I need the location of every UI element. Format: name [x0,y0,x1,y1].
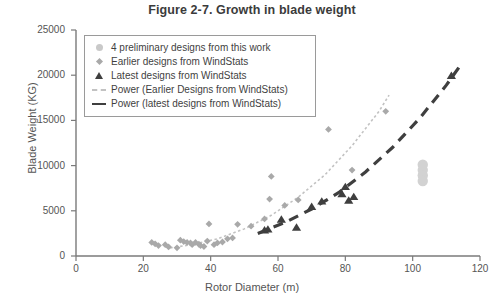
data-point [219,239,226,246]
legend-label: Power (Earlier Designs from WindStats) [111,83,288,96]
data-point [266,196,273,203]
data-point [307,203,316,210]
data-point [349,193,358,200]
data-point [204,238,211,245]
y-tick-marks [71,30,76,256]
data-point [349,167,356,174]
legend-label: 4 preliminary designs from this work [111,41,271,54]
data-point [229,235,236,242]
data-point [174,244,181,251]
legend-marker-dashed-line-icon [91,89,107,91]
data-point [418,176,428,186]
legend-glyph [92,103,106,105]
data-point [325,126,332,133]
x-tick-label: 100 [393,263,433,274]
legend-glyph [95,72,103,79]
data-point [268,173,275,180]
data-point [382,108,389,115]
legend-item: Latest designs from WindStats [91,69,309,82]
x-tick-marks [76,256,480,261]
x-tick-label: 20 [123,263,163,274]
y-axis-label: Blade Weight (KG) [26,48,38,208]
x-tick-label: 60 [258,263,298,274]
x-tick-label: 80 [325,263,365,274]
legend-glyph [95,58,102,65]
legend-marker-triangle-icon [91,72,107,79]
data-point [292,223,301,230]
data-point [261,216,268,223]
chart-legend: 4 preliminary designs from this workEarl… [84,35,316,117]
legend-item: 4 preliminary designs from this work [91,41,309,54]
legend-item: Power (Earlier Designs from WindStats) [91,83,309,96]
legend-label: Earlier designs from WindStats [111,55,248,68]
legend-item: Earlier designs from WindStats [91,55,309,68]
data-point [295,197,302,204]
x-tick-label: 120 [460,263,500,274]
x-tick-label: 0 [56,263,96,274]
y-tick-label: 25000 [5,24,65,35]
y-tick-label: 0 [5,250,65,261]
legend-marker-circle-icon [91,44,107,51]
legend-item: Power (latest designs from WindStats) [91,97,309,110]
data-point [234,221,241,228]
legend-glyph [96,44,103,51]
legend-label: Latest designs from WindStats [111,69,247,82]
data-point [277,215,286,222]
legend-glyph [92,89,106,91]
chart-figure: Figure 2-7. Growth in blade weight 05000… [0,0,504,303]
legend-label: Power (latest designs from WindStats) [111,97,281,110]
legend-marker-diamond-icon [91,59,107,64]
data-point [206,221,213,228]
x-tick-label: 40 [191,263,231,274]
x-axis-label: Rotor Diameter (m) [0,281,504,293]
legend-marker-dashed-line-bold-icon [91,103,107,105]
